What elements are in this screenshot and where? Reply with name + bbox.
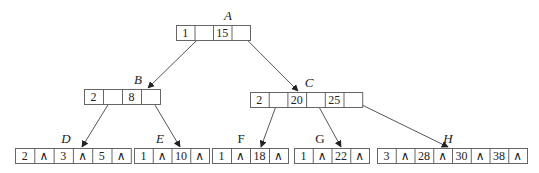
key-cell: 10 bbox=[175, 149, 187, 163]
key-cell: 5 bbox=[99, 149, 105, 163]
node-f: F1∧18∧ bbox=[213, 131, 289, 164]
key-cell: 22 bbox=[335, 149, 347, 163]
key-cell: 2 bbox=[22, 149, 28, 163]
node-g: G1∧22∧ bbox=[295, 131, 370, 164]
node-b: B28 bbox=[85, 72, 161, 105]
node-label: C bbox=[305, 75, 314, 90]
node-d: D2∧3∧5∧ bbox=[16, 131, 132, 164]
key-cell: 3 bbox=[383, 149, 389, 163]
key-cell: 25 bbox=[328, 93, 340, 107]
edge-a-b-arrow bbox=[148, 34, 204, 89]
null-pointer-icon: ∧ bbox=[438, 149, 447, 163]
key-cell: 1 bbox=[140, 149, 146, 163]
key-cell: 18 bbox=[254, 149, 266, 163]
key-cell: 20 bbox=[291, 93, 303, 107]
null-pointer-icon: ∧ bbox=[355, 149, 364, 163]
node-h: H3∧28∧30∧38∧ bbox=[378, 131, 528, 164]
null-pointer-icon: ∧ bbox=[40, 149, 49, 163]
null-pointer-icon: ∧ bbox=[318, 149, 327, 163]
nodes-layer: A115B28C22025D2∧3∧5∧E1∧10∧F1∧18∧G1∧22∧H3… bbox=[16, 8, 528, 164]
node-label: H bbox=[442, 131, 453, 146]
key-cell: 2 bbox=[91, 90, 97, 104]
node-label: A bbox=[223, 8, 232, 23]
node-e: E1∧10∧ bbox=[135, 131, 210, 164]
edge-a-c-arrow bbox=[241, 34, 298, 92]
key-cell: 30 bbox=[455, 149, 467, 163]
key-cell: 38 bbox=[493, 149, 505, 163]
key-cell: 1 bbox=[182, 26, 188, 40]
null-pointer-icon: ∧ bbox=[274, 149, 283, 163]
key-cell: 1 bbox=[300, 149, 306, 163]
node-label: D bbox=[60, 131, 71, 146]
null-pointer-icon: ∧ bbox=[158, 149, 167, 163]
node-label: E bbox=[155, 131, 164, 146]
node-label: G bbox=[315, 131, 324, 146]
key-cell: 2 bbox=[256, 93, 262, 107]
key-cell: 8 bbox=[129, 90, 135, 104]
null-pointer-icon: ∧ bbox=[78, 149, 87, 163]
node-a: A115 bbox=[177, 8, 251, 41]
null-pointer-icon: ∧ bbox=[195, 149, 204, 163]
null-pointer-icon: ∧ bbox=[117, 149, 126, 163]
key-cell: 28 bbox=[418, 149, 430, 163]
null-pointer-icon: ∧ bbox=[236, 149, 245, 163]
edge-c-h-arrow bbox=[353, 101, 448, 148]
key-cell: 1 bbox=[219, 149, 225, 163]
key-cell: 15 bbox=[216, 26, 228, 40]
null-pointer-icon: ∧ bbox=[513, 149, 522, 163]
null-pointer-icon: ∧ bbox=[401, 149, 410, 163]
null-pointer-icon: ∧ bbox=[476, 149, 485, 163]
node-label: F bbox=[237, 131, 244, 146]
key-cell: 3 bbox=[60, 149, 66, 163]
b-tree-diagram: A115B28C22025D2∧3∧5∧E1∧10∧F1∧18∧G1∧22∧H3… bbox=[0, 0, 539, 173]
node-c: C22025 bbox=[251, 75, 363, 108]
node-label: B bbox=[134, 72, 142, 87]
